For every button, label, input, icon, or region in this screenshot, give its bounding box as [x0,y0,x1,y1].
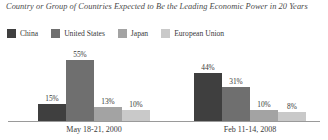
bar-rect [194,73,222,121]
bar-value-label: 10% [129,100,143,109]
bar-european-union-2000: 10% [122,44,150,121]
bar-japan-2008: 10% [250,44,278,121]
legend-item-united-states: United States [51,29,105,38]
bar-rect [122,110,150,121]
bar-rect [38,104,66,121]
legend-swatch-icon [51,29,60,38]
plot-area: 15% 55% 13% 10% 44% 31% [0,44,328,122]
chart-title: Country or Group of Countries Expected t… [6,1,322,12]
bar-china-2000: 15% [38,44,66,121]
legend-item-china: China [7,29,38,38]
chart-legend: China United States Japan European Union [7,27,323,39]
bar-rect [66,60,94,121]
bar-value-label: 31% [229,77,243,86]
bar-japan-2000: 13% [94,44,122,121]
bar-value-label: 13% [101,97,115,106]
bar-rect [250,110,278,121]
bar-chart: Country or Group of Countries Expected t… [0,0,328,140]
legend-label: Japan [131,29,148,38]
bar-rect [94,107,122,121]
legend-label: United States [64,29,105,38]
bar-value-label: 55% [73,50,87,59]
bar-value-label: 44% [201,63,215,72]
bar-united-states-2000: 55% [66,44,94,121]
legend-item-japan: Japan [118,29,148,38]
legend-swatch-icon [161,29,170,38]
bar-china-2008: 44% [194,44,222,121]
legend-swatch-icon [118,29,127,38]
bar-united-states-2008: 31% [222,44,250,121]
category-label-may-2000: May 18-21, 2000 [38,125,150,135]
bar-group-may-2000: 15% 55% 13% 10% [38,44,150,121]
bar-european-union-2008: 8% [278,44,306,121]
bar-value-label: 15% [45,94,59,103]
bar-value-label: 10% [257,100,271,109]
bar-group-feb-2008: 44% 31% 10% 8% [194,44,306,121]
bar-value-label: 8% [287,102,297,111]
legend-item-european-union: European Union [161,29,224,38]
legend-label: China [20,29,38,38]
bar-rect [278,112,306,121]
category-label-feb-2008: Feb 11-14, 2008 [194,125,306,135]
bar-rect [222,87,250,121]
axis-baseline [8,121,320,122]
legend-label: European Union [174,29,224,38]
legend-swatch-icon [7,29,16,38]
